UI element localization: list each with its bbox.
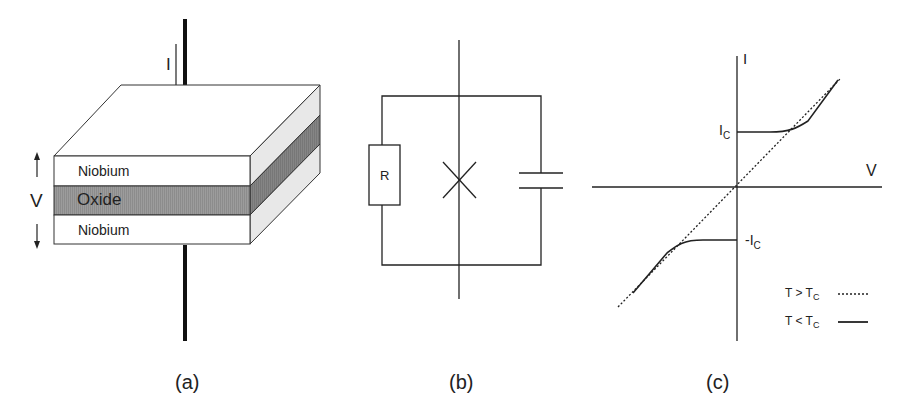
layer-oxide: Oxide — [77, 191, 121, 208]
legend-below-tc: T < TC — [785, 315, 819, 330]
legend-above-tc: T > TC — [785, 287, 819, 302]
caption-c: (c) — [706, 372, 729, 392]
ohmic-line-dotted — [618, 79, 840, 307]
ic-label: IC — [719, 123, 730, 141]
caption-b: (b) — [449, 372, 473, 392]
junction-stack — [34, 19, 320, 341]
y-axis-label: I — [743, 51, 747, 66]
layer-niobium-top: Niobium — [78, 164, 129, 178]
iv-plot — [592, 56, 882, 341]
current-label: I — [166, 56, 171, 73]
voltage-label: V — [30, 191, 43, 210]
top-loop-wire — [382, 96, 541, 173]
x-axis-label: V — [866, 163, 877, 179]
neg-ic-label: -IC — [745, 233, 761, 251]
iv-curve-lower — [633, 240, 737, 293]
iv-curve-upper — [737, 80, 838, 132]
resistor-label: R — [380, 169, 389, 182]
rcsj-circuit — [369, 40, 563, 299]
caption-a: (a) — [175, 372, 199, 392]
bottom-loop-wire — [382, 188, 541, 265]
layer-niobium-bottom: Niobium — [78, 223, 129, 237]
figure-canvas — [0, 0, 909, 417]
